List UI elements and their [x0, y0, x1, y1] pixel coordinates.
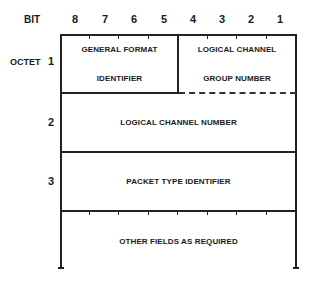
lcgn-label-line1: LOGICAL CHANNEL: [179, 45, 295, 54]
bit-3: 3: [215, 13, 229, 25]
bit-2: 2: [244, 13, 258, 25]
tick: [118, 35, 119, 39]
tick: [89, 35, 90, 39]
bit-label: BIT: [24, 14, 40, 25]
tick: [207, 35, 208, 39]
tick: [89, 211, 90, 215]
other-fields-label: OTHER FIELDS AS REQUIRED: [62, 237, 295, 246]
octet-2-bottom: [60, 151, 297, 153]
tick: [207, 211, 208, 215]
left-foot: [58, 267, 64, 269]
octet-2-number: 2: [40, 116, 54, 128]
tick: [148, 35, 149, 39]
tick: [148, 211, 149, 215]
octet-1-bottom-solid: [60, 92, 178, 94]
tick: [266, 211, 267, 215]
tick: [236, 211, 237, 215]
gfi-label-line1: GENERAL FORMAT: [62, 45, 177, 54]
lcn-label: LOGICAL CHANNEL NUMBER: [62, 118, 295, 127]
tick: [118, 211, 119, 215]
octet-3-number: 3: [40, 175, 54, 187]
tick: [236, 35, 237, 39]
bit-1: 1: [273, 13, 287, 25]
octet-label: OCTET: [10, 57, 41, 67]
bit-8: 8: [68, 13, 82, 25]
tick: [266, 35, 267, 39]
lcgn-label-line2: GROUP NUMBER: [179, 74, 295, 83]
gfi-label-line2: IDENTIFIER: [62, 74, 177, 83]
octet-1-divider: [177, 34, 179, 94]
octet-1-bottom-dashed: [179, 92, 296, 94]
pti-label: PACKET TYPE IDENTIFIER: [62, 177, 295, 186]
bit-7: 7: [98, 13, 112, 25]
bit-5: 5: [157, 13, 171, 25]
right-foot: [293, 267, 299, 269]
bit-4: 4: [186, 13, 200, 25]
tick: [177, 211, 178, 215]
octet-3-bottom: [60, 210, 297, 212]
bit-6: 6: [127, 13, 141, 25]
octet-1-number: 1: [40, 55, 54, 67]
